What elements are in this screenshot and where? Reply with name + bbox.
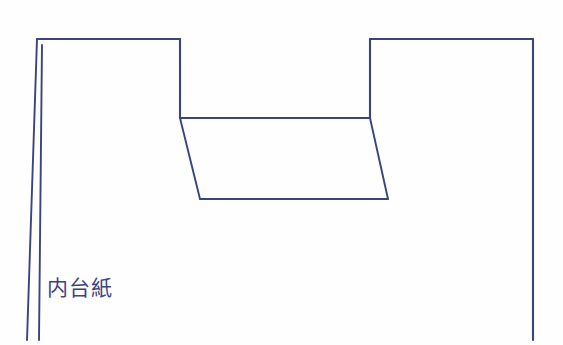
label-inner-mount: 内台紙 bbox=[47, 278, 113, 299]
left-edge-inner-line bbox=[39, 45, 42, 340]
left-edge-outer-line bbox=[27, 39, 37, 340]
notch-face-right-slant-line bbox=[370, 118, 388, 199]
notch-face-left-slant-line bbox=[180, 118, 200, 199]
diagram-canvas: 内台紙 bbox=[0, 0, 563, 345]
